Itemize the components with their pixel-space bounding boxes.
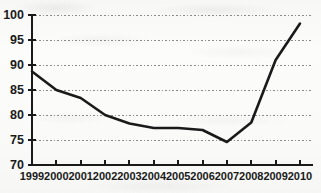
y-tick-label-90: 90 bbox=[10, 59, 24, 72]
x-tick-label-2002: 2002 bbox=[92, 171, 118, 182]
series-line-1 bbox=[32, 24, 300, 143]
x-tick-label-2001: 2001 bbox=[68, 171, 94, 182]
x-tick-label-2007: 2007 bbox=[214, 171, 240, 182]
y-tick-label-95: 95 bbox=[10, 34, 24, 47]
gridlines bbox=[32, 15, 313, 140]
x-tick-label-2004: 2004 bbox=[141, 171, 167, 182]
line-chart: 707580859095100 199920002001200220032004… bbox=[0, 0, 321, 193]
y-tick-label-100: 100 bbox=[3, 9, 24, 22]
x-tick-label-2006: 2006 bbox=[190, 171, 216, 182]
x-tick-label-2009: 2009 bbox=[263, 171, 289, 182]
y-tick-label-85: 85 bbox=[10, 84, 24, 97]
x-tick-label-2003: 2003 bbox=[116, 171, 142, 182]
y-tick-label-80: 80 bbox=[10, 109, 24, 122]
data-series-line bbox=[32, 24, 300, 143]
x-tick-label-2010: 2010 bbox=[287, 171, 313, 182]
x-tick-label-2008: 2008 bbox=[238, 171, 264, 182]
x-tick-label-1999: 1999 bbox=[19, 171, 45, 182]
x-tick-label-2000: 2000 bbox=[43, 171, 69, 182]
plot-area bbox=[0, 0, 321, 193]
y-tick-label-75: 75 bbox=[10, 134, 24, 147]
x-tick-label-2005: 2005 bbox=[165, 171, 191, 182]
